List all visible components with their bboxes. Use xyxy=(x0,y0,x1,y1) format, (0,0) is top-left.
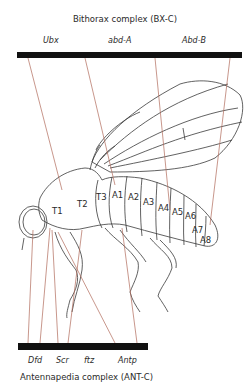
gene-label-antp: Antp xyxy=(118,356,137,365)
antennapedia-mapping-lines xyxy=(28,228,137,343)
gene-label-dfd: Dfd xyxy=(28,356,42,365)
segment-label-t3: T3 xyxy=(96,192,107,202)
wing-outline xyxy=(92,81,243,172)
segment-label-a7: A7 xyxy=(192,225,203,235)
fly-body-outline xyxy=(19,145,218,318)
segment-label-a1: A1 xyxy=(112,190,123,200)
antennapedia-chromosome-bar xyxy=(18,343,148,350)
segment-label-a3: A3 xyxy=(143,197,154,207)
segment-label-a8: A8 xyxy=(200,235,211,245)
antennapedia-complex-title: Antennapedia complex (ANT-C) xyxy=(20,372,153,382)
segment-label-t1: T1 xyxy=(52,206,63,216)
segment-label-a4: A4 xyxy=(158,203,169,213)
bithorax-chromosome-bar xyxy=(17,52,242,58)
segment-label-t2: T2 xyxy=(77,199,88,209)
gene-label-ftz: ftz xyxy=(84,356,94,365)
segment-label-a2: A2 xyxy=(128,192,139,202)
segment-label-a5: A5 xyxy=(172,207,183,217)
fly-diagram xyxy=(0,0,250,389)
segment-label-a6: A6 xyxy=(185,211,196,221)
gene-label-scr: Scr xyxy=(56,356,69,365)
